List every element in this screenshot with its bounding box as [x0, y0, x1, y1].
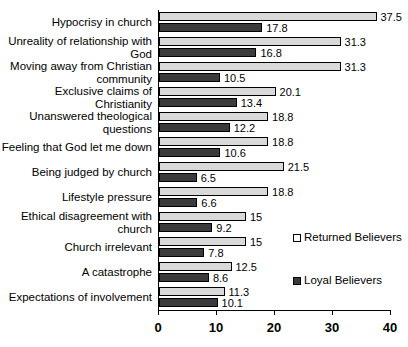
category-label-line: Moving away from Christian: [10, 60, 152, 73]
category-label-line: Church irrelevant: [64, 241, 152, 254]
bar-value-label: 18.8: [268, 186, 293, 197]
bar-rect: [159, 98, 237, 107]
category-label-line: Being judged by church: [32, 166, 152, 179]
bar-value-label: 37.5: [377, 11, 402, 22]
bar-value-label: 10.1: [218, 297, 243, 308]
bar-rect: [159, 298, 218, 307]
chart-row: 18.812.2: [159, 110, 391, 135]
category-label-line: Unreality of relationship with: [8, 35, 152, 48]
bar-rect: [159, 137, 268, 146]
chart-row: 18.810.6: [159, 135, 391, 160]
category-label-line: Lifestyle pressure: [62, 191, 152, 204]
x-tick-label: 40: [383, 320, 397, 335]
bar-rect: [159, 223, 212, 232]
bar-rect: [159, 248, 204, 257]
chart-row: 31.316.8: [159, 35, 391, 60]
legend-label: Loyal Believers: [304, 275, 382, 287]
x-tick-label: 10: [209, 320, 223, 335]
bar-value-label: 15: [246, 236, 262, 247]
bar-rect: [159, 123, 230, 132]
chart-row: 31.310.5: [159, 60, 391, 85]
bar-rect: [159, 212, 246, 221]
bar-value-label: 12.5: [232, 261, 257, 272]
category-label-line: community: [10, 73, 152, 86]
plot-area: 37.517.831.316.831.310.520.113.418.812.2…: [158, 10, 391, 311]
bar-rect: [159, 12, 377, 21]
category-label-line: questions: [29, 123, 152, 136]
category-label: Hypocrisy in church: [0, 10, 152, 35]
x-tick-label: 20: [267, 320, 281, 335]
chart-row: 18.86.6: [159, 185, 391, 210]
bar-value-label: 18.8: [268, 136, 293, 147]
category-axis-labels: Hypocrisy in churchUnreality of relation…: [0, 10, 152, 310]
bar-value-label: 8.6: [209, 272, 228, 283]
bar-value-label: 6.5: [197, 172, 216, 183]
chart-row: 21.56.5: [159, 160, 391, 185]
legend-entry-loyal: Loyal Believers: [293, 275, 382, 287]
category-label: Being judged by church: [0, 160, 152, 185]
category-label-line: Ethical disagreement with: [21, 210, 152, 223]
bar-value-label: 16.8: [256, 47, 281, 58]
bar-rect: [159, 148, 220, 157]
x-axis: 010203040: [158, 310, 390, 340]
category-label: Exclusive claims of Christianity: [0, 85, 152, 110]
category-label: Church irrelevant: [0, 235, 152, 260]
category-label: Unanswered theologicalquestions: [0, 110, 152, 135]
bar-rect: [159, 262, 232, 271]
category-label-line: church: [21, 223, 152, 236]
chart-row: 37.517.8: [159, 10, 391, 35]
category-label: Feeling that God let me down: [0, 135, 152, 160]
bar-rect: [159, 173, 197, 182]
legend-label: Returned Believers: [304, 232, 402, 244]
category-label-line: Feeling that God let me down: [2, 141, 152, 154]
chart-row: 20.113.4: [159, 85, 391, 110]
bar-rect: [159, 87, 276, 96]
category-label-line: A catastrophe: [82, 266, 152, 279]
x-tick-mark: [216, 310, 217, 315]
category-label-line: Exclusive claims of Christianity: [0, 85, 152, 110]
x-tick-mark: [158, 310, 159, 315]
category-label: Lifestyle pressure: [0, 185, 152, 210]
x-tick-mark: [332, 310, 333, 315]
bar-value-label: 13.4: [237, 97, 262, 108]
category-label: Unreality of relationship withGod: [0, 35, 152, 60]
bar-rect: [159, 273, 209, 282]
bar-rect: [159, 198, 197, 207]
bar-value-label: 15: [246, 211, 262, 222]
x-tick-mark: [274, 310, 275, 315]
chart-row: 11.310.1: [159, 285, 391, 310]
bar-value-label: 10.5: [220, 72, 245, 83]
bar-value-label: 17.8: [262, 22, 287, 33]
bar-value-label: 6.6: [197, 197, 216, 208]
bar-value-label: 21.5: [284, 161, 309, 172]
bar-value-label: 31.3: [341, 36, 366, 47]
bar-value-label: 10.6: [220, 147, 245, 158]
bar-value-label: 9.2: [212, 222, 231, 233]
x-tick-mark: [390, 310, 391, 315]
bar-rect: [159, 48, 256, 57]
bar-rect: [159, 112, 268, 121]
category-label-line: Unanswered theological: [29, 110, 152, 123]
x-tick-label: 30: [325, 320, 339, 335]
category-label: Ethical disagreement withchurch: [0, 210, 152, 235]
legend-swatch-icon: [293, 277, 301, 285]
bar-rect: [159, 287, 225, 296]
category-label: Moving away from Christiancommunity: [0, 60, 152, 85]
bar-chart: Hypocrisy in churchUnreality of relation…: [0, 0, 408, 347]
category-label: A catastrophe: [0, 260, 152, 285]
bar-value-label: 7.8: [204, 247, 223, 258]
category-label-line: Expectations of involvement: [9, 291, 152, 304]
legend-swatch-icon: [293, 234, 301, 242]
bar-rect: [159, 162, 284, 171]
category-label-line: Hypocrisy in church: [52, 16, 152, 29]
category-label: Expectations of involvement: [0, 285, 152, 310]
bar-value-label: 31.3: [341, 61, 366, 72]
category-label-line: God: [8, 48, 152, 61]
bar-rect: [159, 73, 220, 82]
bar-rect: [159, 37, 341, 46]
bar-rect: [159, 62, 341, 71]
bar-value-label: 18.8: [268, 111, 293, 122]
x-tick-label: 0: [154, 320, 161, 335]
bar-rect: [159, 187, 268, 196]
bar-value-label: 20.1: [276, 86, 301, 97]
